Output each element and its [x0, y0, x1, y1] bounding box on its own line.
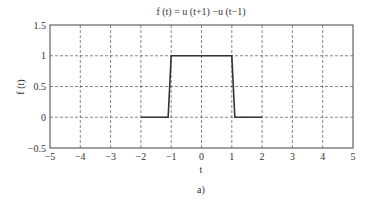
x-tick-label: 4	[320, 151, 325, 162]
x-tick-label: 3	[290, 151, 295, 162]
x-tick-label: −1	[166, 151, 177, 162]
x-tick-label: −4	[75, 151, 86, 162]
x-tick-label: −5	[45, 151, 56, 162]
y-tick-label: −0.5	[28, 143, 46, 154]
chart-title: f (t) = u (t+1) −u (t−1)	[156, 6, 245, 18]
x-tick-label: 2	[260, 151, 265, 162]
x-tick-label: −3	[105, 151, 116, 162]
figure-caption: a)	[197, 184, 205, 196]
y-tick-label: 1	[41, 50, 46, 61]
chart-figure: −5−4−3−2−1012345 −0.500.511.5 f (t) = u …	[0, 0, 374, 204]
y-axis-label: f (t)	[15, 79, 27, 94]
x-tick-label: 5	[351, 151, 356, 162]
x-tick-label: 1	[229, 151, 234, 162]
x-tick-labels: −5−4−3−2−1012345	[45, 151, 356, 162]
x-tick-label: −2	[136, 151, 147, 162]
y-tick-label: 1.5	[34, 20, 47, 31]
y-tick-label: 0.5	[34, 81, 47, 92]
x-tick-label: 0	[199, 151, 204, 162]
x-axis-label: t	[200, 164, 203, 175]
y-tick-label: 0	[41, 112, 46, 123]
grid-lines	[50, 25, 353, 148]
y-tick-labels: −0.500.511.5	[28, 20, 46, 154]
